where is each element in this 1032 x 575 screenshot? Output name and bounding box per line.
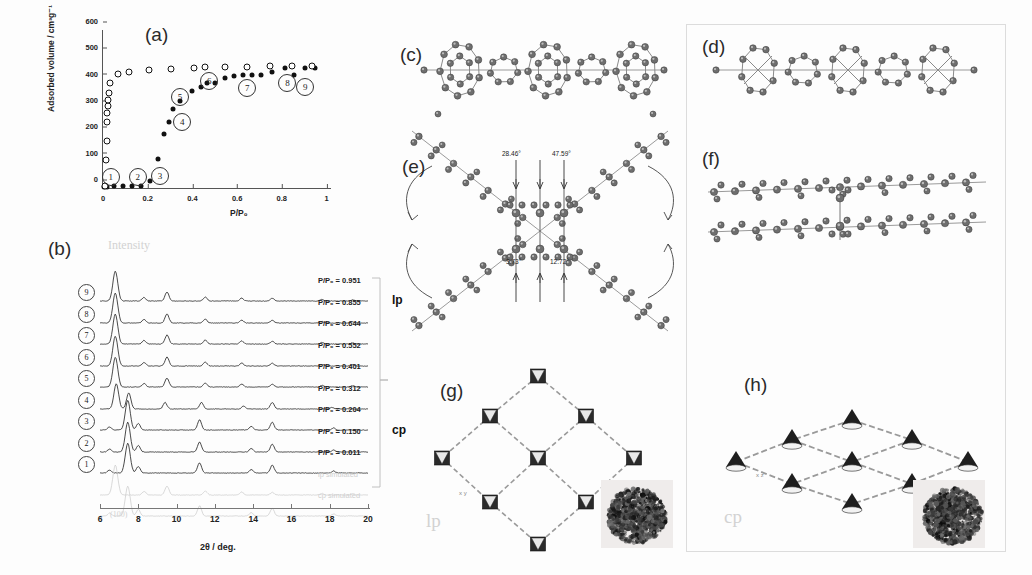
powder-grain — [961, 488, 965, 492]
atom-sphere — [789, 57, 795, 63]
powder-grain — [951, 505, 954, 508]
panel-b-pressure-label: P/P₀ = 0.312 — [318, 384, 361, 393]
atom-highlight — [643, 45, 645, 47]
atom-sphere — [467, 88, 474, 95]
atom-sphere — [628, 41, 635, 48]
powder-grain — [617, 511, 619, 513]
powder-grain — [644, 489, 649, 494]
powder-grain — [955, 525, 960, 530]
atom-highlight — [560, 237, 562, 239]
powder-grain — [954, 497, 959, 502]
atom-highlight — [862, 61, 864, 63]
atom-sphere — [490, 59, 496, 65]
metal-node-polyhedron — [531, 369, 546, 383]
metal-node-polyhedron — [958, 451, 978, 471]
panel-e-arrow-down — [537, 160, 543, 189]
atom-highlight — [950, 174, 952, 176]
panel-b-pressure-label: P/P₀ = 0.011 — [318, 448, 360, 457]
atom-highlight — [647, 304, 649, 306]
atom-sphere — [450, 160, 457, 167]
powder-grain — [641, 506, 645, 510]
powder-grain — [636, 542, 638, 544]
atom-highlight — [636, 143, 638, 145]
atom-highlight — [817, 186, 819, 188]
atom-sphere — [468, 174, 475, 181]
atom-highlight — [476, 58, 478, 60]
atom-sphere — [829, 231, 835, 237]
panel-a-point-desorption — [103, 137, 110, 144]
powder-grain — [650, 528, 654, 532]
atom-highlight — [824, 219, 826, 221]
panel-e-rotation-arrow — [407, 244, 432, 298]
panel-e-arrow-up — [561, 273, 567, 302]
panel-h-phase-label: cp — [724, 506, 742, 528]
atom-sphere — [559, 235, 565, 241]
panel-b-x-axis-label: 2θ / deg. — [200, 542, 236, 552]
atom-highlight — [782, 221, 784, 223]
atom-highlight — [532, 255, 534, 257]
panel-a-point-adsorption — [155, 157, 160, 162]
atom-sphere — [583, 79, 589, 85]
metal-node-polyhedron — [579, 495, 594, 509]
atom-sphere — [439, 142, 445, 148]
atom-highlight — [866, 217, 868, 219]
atom-highlight — [880, 58, 882, 60]
powder-grain — [619, 525, 624, 530]
panel-b-tick-mark — [177, 504, 178, 508]
atom-highlight — [537, 75, 539, 77]
atom-sphere — [554, 214, 561, 221]
atom-highlight — [651, 112, 653, 114]
powder-grain — [978, 511, 981, 514]
panel-b-x-tick: 14 — [248, 514, 257, 524]
metal-node-polyhedron — [531, 451, 546, 465]
atom-highlight — [922, 182, 924, 184]
atom-highlight — [564, 58, 566, 60]
atom-highlight — [790, 58, 792, 60]
panel-b-trace-number-8: 8 — [78, 306, 95, 323]
atom-highlight — [901, 222, 903, 224]
atom-sphere — [555, 202, 561, 208]
panel-b-pressure-label: cp simulated — [318, 491, 360, 500]
atom-highlight — [950, 214, 952, 216]
atom-sphere — [879, 57, 885, 63]
atom-sphere — [635, 142, 641, 148]
atom-highlight — [748, 88, 750, 90]
atom-highlight — [544, 203, 546, 205]
atom-sphere — [710, 228, 717, 235]
atom-highlight — [845, 218, 847, 220]
atom-highlight — [451, 161, 453, 163]
powder-grain — [633, 488, 635, 490]
atom-highlight — [579, 60, 581, 62]
powder-grain — [639, 492, 641, 494]
atom-highlight — [555, 61, 557, 63]
atom-highlight — [634, 54, 636, 56]
atom-sphere — [840, 45, 847, 52]
atom-highlight — [925, 229, 927, 231]
panel-g-phase-label: lp — [426, 510, 441, 532]
atom-highlight — [859, 184, 861, 186]
powder-grain — [608, 514, 613, 519]
powder-grain — [949, 515, 951, 517]
atom-sphere — [781, 219, 787, 225]
atom-highlight — [757, 235, 759, 237]
metal-node-polyhedron — [842, 409, 862, 429]
atom-highlight — [757, 195, 759, 197]
atom-sphere — [617, 51, 624, 58]
atom-highlight — [901, 182, 903, 184]
panel-a-y-axis-label: Adsorbed volume / cm³g⁻¹ — [46, 5, 56, 112]
atom-highlight — [775, 187, 777, 189]
panel-a-point-desorption — [244, 63, 251, 70]
atom-highlight — [931, 46, 933, 48]
atom-highlight — [537, 210, 540, 213]
atom-sphere — [435, 111, 441, 117]
panel-e-arrow-down — [513, 160, 519, 189]
metal-node-polyhedron — [435, 451, 450, 465]
atom-highlight — [447, 291, 449, 293]
atom-highlight — [498, 250, 500, 252]
panel-c-molecular-chain — [398, 22, 678, 127]
atom-sphere — [752, 227, 759, 234]
powder-grain — [637, 496, 640, 499]
atom-sphere — [466, 43, 473, 50]
atom-sphere — [652, 74, 659, 81]
atom-sphere — [828, 73, 835, 80]
